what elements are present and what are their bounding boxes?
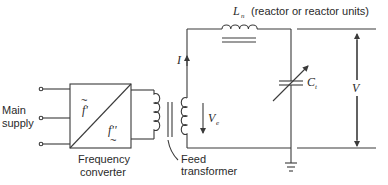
inductor-note: (reactor or reactor units) <box>251 5 369 17</box>
converter-label: Frequency <box>78 153 130 165</box>
feed-transformer-label-2: transformer <box>181 165 238 177</box>
primary-coil-icon <box>154 90 160 139</box>
ground-icon <box>285 163 297 171</box>
terminal-icon <box>39 142 43 146</box>
terminal-icon <box>39 87 43 91</box>
main-supply-label: Main <box>2 104 26 116</box>
main-supply-terminals <box>39 87 70 146</box>
converter-label-2: converter <box>80 166 126 178</box>
terminal-icon <box>39 116 43 120</box>
circuit-diagram: Main supply ~ f' f'' ~ Frequency convert… <box>0 0 388 185</box>
inductor-coil-icon <box>222 25 257 29</box>
feed-transformer <box>154 90 187 140</box>
svg-text:n: n <box>241 12 245 20</box>
feed-transformer-label: Feed <box>181 153 206 165</box>
main-supply-label-2: supply <box>2 117 34 129</box>
svg-text:t: t <box>315 83 318 91</box>
frequency-converter: ~ f' f'' ~ <box>70 84 131 148</box>
reactor-inductor <box>222 25 257 42</box>
secondary-coil-icon <box>181 98 187 140</box>
svg-text:e: e <box>216 119 219 127</box>
tilde-out-icon: ~ <box>110 134 116 146</box>
f-in-label: f' <box>82 103 88 117</box>
feed-leader-line <box>168 140 178 160</box>
inductor-label: L <box>232 4 240 18</box>
current-label: I <box>176 53 182 67</box>
converter-diagonal <box>70 84 131 148</box>
